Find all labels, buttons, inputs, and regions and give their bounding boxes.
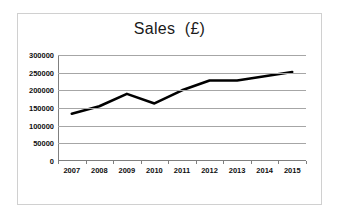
x-axis-tick-label: 2010 bbox=[146, 166, 163, 175]
y-axis-tick-labels: 300000250000200000150000100000500000 bbox=[14, 55, 54, 161]
x-axis-tick-label: 2009 bbox=[119, 166, 136, 175]
x-axis-tick-labels: 200720082009201020112012201320142015 bbox=[58, 166, 306, 180]
y-axis-tick-label: 0 bbox=[50, 157, 54, 166]
x-axis-tick-marks bbox=[58, 161, 306, 165]
x-axis-tick-label: 2014 bbox=[256, 166, 273, 175]
y-axis-tick-label: 200000 bbox=[29, 86, 54, 95]
gridline bbox=[58, 126, 306, 127]
gridline bbox=[58, 55, 306, 56]
gridline bbox=[58, 73, 306, 74]
x-axis-tick-mark bbox=[168, 161, 169, 164]
y-axis-tick-label: 300000 bbox=[29, 51, 54, 60]
x-axis-tick-mark bbox=[306, 161, 307, 164]
y-axis-tick-label: 150000 bbox=[29, 104, 54, 113]
gridline bbox=[58, 143, 306, 144]
chart-frame: Sales (£) 300000250000200000150000100000… bbox=[17, 13, 322, 205]
x-axis-tick-label: 2008 bbox=[91, 166, 108, 175]
gridline bbox=[58, 108, 306, 109]
x-axis-tick-label: 2013 bbox=[229, 166, 246, 175]
x-axis-tick-mark bbox=[58, 161, 59, 164]
x-axis-tick-label: 2007 bbox=[63, 166, 80, 175]
x-axis-tick-mark bbox=[141, 161, 142, 164]
x-axis-tick-label: 2012 bbox=[201, 166, 218, 175]
x-axis-tick-mark bbox=[251, 161, 252, 164]
x-axis-tick-mark bbox=[196, 161, 197, 164]
x-axis-tick-mark bbox=[86, 161, 87, 164]
y-axis-tick-label: 250000 bbox=[29, 68, 54, 77]
x-axis-tick-mark bbox=[278, 161, 279, 164]
chart-title: Sales (£) bbox=[18, 20, 321, 38]
x-axis-tick-label: 2011 bbox=[174, 166, 190, 175]
gridline bbox=[58, 90, 306, 91]
y-axis-tick-label: 100000 bbox=[29, 121, 54, 130]
y-axis-tick-label: 50000 bbox=[33, 139, 54, 148]
x-axis-tick-mark bbox=[223, 161, 224, 164]
plot-area bbox=[58, 55, 306, 161]
x-axis-tick-label: 2015 bbox=[284, 166, 301, 175]
x-axis-tick-mark bbox=[113, 161, 114, 164]
